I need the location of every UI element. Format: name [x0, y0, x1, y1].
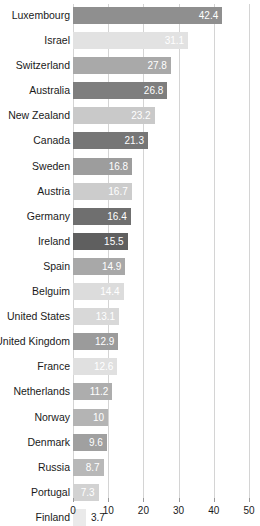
bar-row: Israel31.1 [0, 31, 260, 56]
x-tick-mark [143, 498, 144, 502]
bar-row: Sweden16.8 [0, 157, 260, 182]
category-label: Canada [0, 134, 70, 146]
bar-value-label: 16.4 [107, 210, 126, 223]
bar-container: 31.1 [73, 32, 188, 49]
x-tick-label: 40 [199, 505, 229, 517]
x-tick-label: 50 [234, 505, 260, 517]
bar-row: Australia26.8 [0, 81, 260, 106]
bar-container: 10 [73, 409, 108, 426]
bar-container: 15.5 [73, 233, 128, 250]
bar-container: 27.8 [73, 57, 171, 74]
bar-value-label: 27.8 [147, 59, 166, 72]
bar-value-label: 16.8 [109, 160, 128, 173]
bar-row: Germany16.4 [0, 207, 260, 232]
bar-row: Canada21.3 [0, 131, 260, 156]
bar-row: Spain14.9 [0, 257, 260, 282]
category-label: Austria [0, 185, 70, 197]
category-label: Luxembourg [0, 9, 70, 21]
x-tick-label: 30 [164, 505, 194, 517]
bar-container: 21.3 [73, 132, 148, 149]
bar-value-label: 13.1 [96, 310, 115, 323]
bar-container: 13.1 [73, 308, 119, 325]
bar-row: Norway10 [0, 408, 260, 433]
category-label: Russia [0, 461, 70, 473]
bar-row: Denmark9.6 [0, 433, 260, 458]
bar-container: 14.9 [73, 258, 125, 275]
x-tick-label: 10 [93, 505, 123, 517]
bar-row: Netherlands11.2 [0, 382, 260, 407]
bar-row: France12.6 [0, 357, 260, 382]
category-label: Denmark [0, 436, 70, 448]
bar-row: United States13.1 [0, 307, 260, 332]
bar-value-label: 31.1 [165, 34, 184, 47]
bar-value-label: 12.9 [95, 335, 114, 348]
bar-value-label: 12.6 [94, 360, 113, 373]
category-label: Switzerland [0, 59, 70, 71]
category-label: Israel [0, 34, 70, 46]
bar-value-label: 14.4 [100, 285, 119, 298]
bar-row: Austria16.7 [0, 182, 260, 207]
bar-rows: Luxembourg42.4Israel31.1Switzerland27.8A… [0, 6, 260, 526]
category-label: Sweden [0, 160, 70, 172]
bar-container: 16.7 [73, 183, 132, 200]
bar-value-label: 8.7 [86, 461, 100, 474]
category-label: France [0, 360, 70, 372]
bar-row: Ireland15.5 [0, 232, 260, 257]
bar-container: 11.2 [73, 383, 112, 400]
bar-value-label: 15.5 [104, 235, 123, 248]
category-label: Belguim [0, 285, 70, 297]
category-label: Germany [0, 210, 70, 222]
bar-container: 8.7 [73, 459, 104, 476]
x-tick-label: 20 [128, 505, 158, 517]
bar-container: 16.8 [73, 158, 132, 175]
bar-value-label: 42.4 [199, 9, 218, 22]
bar-value-label: 14.9 [102, 260, 121, 273]
bar-value-label: 11.2 [90, 385, 109, 398]
x-tick-mark [179, 498, 180, 502]
bar-row: United Kingdom12.9 [0, 332, 260, 357]
category-label: Norway [0, 411, 70, 423]
bar-value-label: 9.6 [89, 436, 103, 449]
x-tick-mark [108, 498, 109, 502]
x-tick-mark [73, 498, 74, 502]
bar-row: Switzerland27.8 [0, 56, 260, 81]
bar-value-label: 23.2 [131, 109, 150, 122]
category-label: United States [0, 310, 70, 322]
bar-value-label: 10 [93, 411, 104, 424]
x-tick-mark [214, 498, 215, 502]
bar-container: 14.4 [73, 283, 124, 300]
category-label: Netherlands [0, 385, 70, 397]
bar-row: Russia8.7 [0, 458, 260, 483]
bar-chart: Luxembourg42.4Israel31.1Switzerland27.8A… [0, 0, 260, 526]
category-label: Portugal [0, 486, 70, 498]
bar-value-label: 7.3 [81, 486, 95, 499]
bar-container: 42.4 [73, 7, 222, 24]
bar-value-label: 26.8 [144, 84, 163, 97]
x-axis: 01020304050 [0, 498, 260, 526]
bar-container: 9.6 [73, 434, 107, 451]
bar-container: 12.6 [73, 358, 117, 375]
category-label: Spain [0, 260, 70, 272]
bar-container: 16.4 [73, 208, 131, 225]
bar-value-label: 21.3 [125, 134, 144, 147]
bar-container: 26.8 [73, 82, 167, 99]
bar-row: Luxembourg42.4 [0, 6, 260, 31]
category-label: Ireland [0, 235, 70, 247]
bar-row: New Zealand23.2 [0, 106, 260, 131]
bar-container: 12.9 [73, 333, 118, 350]
bar-row: Belguim14.4 [0, 282, 260, 307]
bar-value-label: 16.7 [108, 185, 127, 198]
x-tick-label: 0 [58, 505, 88, 517]
x-tick-mark [249, 498, 250, 502]
category-label: New Zealand [0, 109, 70, 121]
category-label: Australia [0, 84, 70, 96]
category-label: United Kingdom [0, 335, 70, 347]
bar-container: 23.2 [73, 107, 155, 124]
